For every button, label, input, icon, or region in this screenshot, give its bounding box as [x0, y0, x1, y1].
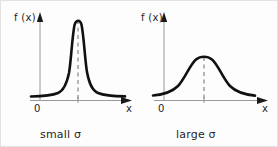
y-axis-label: f (x)	[14, 13, 36, 23]
x-axis-label: x	[262, 104, 268, 114]
figure-container: f (x) 0 x small σ f (x) 0 x large σ	[0, 0, 278, 147]
y-axis-arrowhead	[37, 12, 43, 22]
y-axis-label: f (x)	[141, 13, 163, 23]
panel-large-sigma: f (x) 0 x	[139, 0, 278, 147]
x-axis-label: x	[126, 104, 132, 114]
origin-label: 0	[34, 104, 41, 114]
origin-label: 0	[158, 104, 165, 114]
caption-large-sigma: large σ	[176, 129, 216, 140]
panel-small-sigma: f (x) 0 x	[0, 0, 139, 147]
caption-small-sigma: small σ	[40, 129, 81, 140]
